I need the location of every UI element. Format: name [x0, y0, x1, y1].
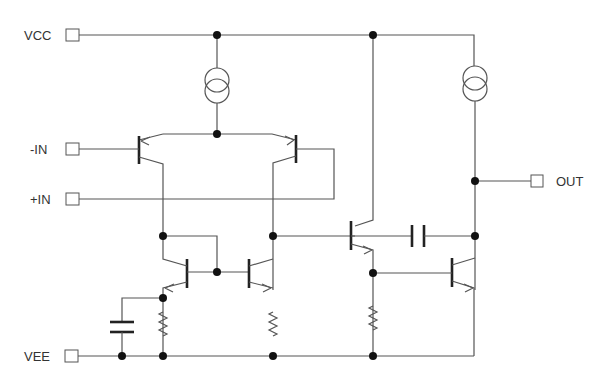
pin-box-in-neg — [66, 143, 79, 155]
wire — [163, 134, 296, 140]
resistor-icon — [369, 306, 377, 330]
pin-box-vcc — [66, 29, 79, 41]
wire — [163, 236, 217, 272]
pin-box-in-pos — [66, 193, 79, 205]
pin-label-in-pos: +IN — [30, 192, 51, 207]
resistor-icon — [159, 312, 167, 336]
pnp-transistor-q1 — [79, 136, 163, 236]
capacitor-c1 — [412, 225, 475, 247]
npn-transistor-q6 — [373, 258, 475, 356]
pin-box-out — [531, 175, 543, 187]
pin-label-vee: VEE — [24, 349, 50, 364]
npn-transistor-q4 — [249, 259, 273, 292]
circuit-schematic: VCC -IN +IN VEE OUT — [0, 0, 606, 388]
resistor-icon — [269, 312, 277, 336]
pin-label-in-neg: -IN — [30, 142, 47, 157]
pnp-transistor-q2 — [79, 135, 334, 290]
npn-transistor-q3 — [163, 236, 249, 356]
pin-label-out: OUT — [556, 174, 584, 189]
wire — [139, 134, 163, 140]
junction-dots — [118, 31, 479, 360]
vcc-rail — [79, 35, 474, 226]
pin-box-vee — [65, 350, 78, 362]
pin-label-vcc: VCC — [24, 28, 51, 43]
current-source-icon — [463, 66, 487, 101]
npn-transistor-q5 — [351, 221, 412, 356]
current-source-icon — [205, 68, 229, 103]
capacitor-c2 — [110, 298, 163, 356]
